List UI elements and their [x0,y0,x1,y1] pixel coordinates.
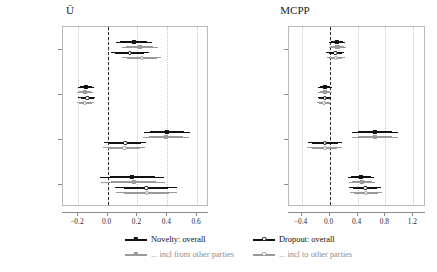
x-tick-label-3: 0.4 [162,217,171,226]
gridline-x-3 [167,27,169,205]
point-estimate-square [132,180,136,184]
x-axis-line [62,212,208,213]
legend-dropout-overall[interactable]: Dropout: overall [253,235,335,244]
panel-title-right: MCPP [255,4,335,16]
point-estimate-square [323,90,327,94]
point-estimate-circle [363,186,367,190]
x-tick-4 [196,212,197,216]
point-estimate-circle [144,186,148,190]
point-estimate-square [373,130,377,134]
zero-reference-line [108,27,109,205]
point-estimate-circle [128,51,132,55]
legend-label: Dropout: overall [279,235,335,244]
point-estimate-circle [333,51,337,55]
point-estimate-circle [122,146,126,150]
point-estimate-square [132,40,136,44]
point-estimate-square [130,175,134,179]
legend-label: ... incl to other parties [279,250,352,259]
x-tick-0 [77,212,78,216]
point-estimate-circle [139,56,143,60]
plot-area-right [288,26,425,206]
gridline-x-4 [413,27,415,205]
point-estimate-circle [123,141,127,145]
point-estimate-square [359,175,363,179]
point-estimate-circle [333,56,337,60]
point-estimate-square [323,85,327,89]
legend-dropout-incl-to[interactable]: ... incl to other parties [253,250,352,259]
plot-area-left [62,26,208,206]
panel-title-left: Ü [30,4,110,16]
x-tick-4 [412,212,413,216]
point-estimate-circle [322,96,326,100]
legend-label: Novelty: overall [151,235,206,244]
point-estimate-square [164,135,168,139]
legend-square-icon [125,235,147,244]
x-tick-label-2: 0.2 [132,217,141,226]
point-estimate-square [373,135,377,139]
point-estimate-square [360,180,364,184]
point-estimate-circle [85,96,89,100]
gridline-x-3 [385,27,387,205]
point-estimate-square [165,130,169,134]
forest-plot-figure: Ü −0.20.00.20.40.6log10Ülog10νlog10votec… [0,0,437,272]
x-tick-label-0: −0.4 [294,217,307,226]
legend-square-icon [125,250,147,259]
x-tick-1 [107,212,108,216]
x-tick-label-4: 0.6 [191,217,200,226]
point-estimate-circle [322,101,326,105]
y-tick-1 [284,94,288,95]
point-estimate-square [138,45,142,49]
x-tick-label-4: 1.2 [408,217,417,226]
point-estimate-circle [83,101,87,105]
x-tick-2 [357,212,358,216]
x-tick-1 [329,212,330,216]
gridline-x-4 [197,27,199,205]
legend-circle-icon [253,235,275,244]
y-tick-0 [284,49,288,50]
x-tick-3 [166,212,167,216]
point-estimate-circle [323,141,327,145]
y-tick-2 [58,139,62,140]
y-tick-3 [284,184,288,185]
x-tick-label-2: 0.4 [352,217,361,226]
x-tick-label-0: −0.2 [70,217,83,226]
point-estimate-square [83,90,87,94]
legend-novelty-overall[interactable]: Novelty: overall [125,235,206,244]
legend-label: ... incl from other parties [151,250,234,259]
x-tick-label-1: 0.0 [102,217,111,226]
y-tick-2 [284,139,288,140]
y-tick-1 [58,94,62,95]
x-tick-2 [136,212,137,216]
legend-novelty-incl-from[interactable]: ... incl from other parties [125,250,234,259]
y-tick-0 [58,49,62,50]
gridline-x-0 [302,27,304,205]
point-estimate-circle [145,191,149,195]
point-estimate-square [84,85,88,89]
legend-circle-icon [253,250,275,259]
x-tick-3 [384,212,385,216]
point-estimate-square [335,45,339,49]
point-estimate-circle [322,146,326,150]
x-tick-label-1: 0.0 [324,217,333,226]
point-estimate-circle [364,191,368,195]
gridline-x-0 [78,27,80,205]
x-tick-label-3: 0.8 [380,217,389,226]
y-tick-3 [58,184,62,185]
x-tick-0 [301,212,302,216]
point-estimate-square [335,40,339,44]
